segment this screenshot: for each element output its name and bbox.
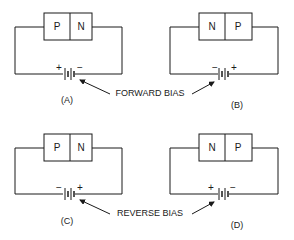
battery-icon <box>219 188 228 200</box>
battery-icon <box>65 68 74 80</box>
region-label: P <box>235 142 242 153</box>
region-label: P <box>54 142 61 153</box>
battery-sign: − <box>212 62 218 73</box>
battery-sign: + <box>56 62 62 73</box>
region-label: P <box>235 21 242 32</box>
wire-left-b <box>170 27 218 74</box>
panel-c <box>15 134 122 214</box>
region-label: N <box>77 142 84 153</box>
region-label: N <box>77 21 84 32</box>
arrow-icon <box>192 82 214 94</box>
arrow-icon <box>192 202 214 214</box>
panel-label-a: (A) <box>61 95 73 105</box>
forward-bias-caption: FORWARD BIAS <box>115 88 184 98</box>
panel-a <box>15 13 122 94</box>
panel-b <box>170 13 278 94</box>
panel-label-b: (B) <box>231 100 243 110</box>
battery-sign: + <box>208 182 214 193</box>
battery-icon <box>65 188 74 200</box>
arrow-icon <box>80 80 110 94</box>
battery-sign: − <box>230 182 236 193</box>
panel-d <box>170 134 278 214</box>
region-label: N <box>208 21 215 32</box>
battery-sign: + <box>77 182 83 193</box>
region-label: P <box>54 21 61 32</box>
junction-box-a <box>44 13 92 40</box>
battery-icon <box>219 68 228 80</box>
region-label: N <box>208 142 215 153</box>
reverse-bias-caption: REVERSE BIAS <box>117 208 183 218</box>
battery-sign: − <box>77 62 83 73</box>
panel-label-d: (D) <box>231 220 244 230</box>
battery-sign: − <box>56 182 62 193</box>
arrow-icon <box>80 200 110 214</box>
panel-label-c: (C) <box>61 216 74 226</box>
bias-diagram: P N N P P N N P + − − + − + + − (A) (B) … <box>0 0 294 240</box>
battery-sign: + <box>231 62 237 73</box>
